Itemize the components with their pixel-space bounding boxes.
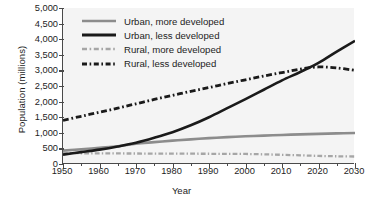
y-axis-tick xyxy=(59,117,64,118)
y-axis-tick-label: 1,500 xyxy=(2,112,58,122)
x-axis-tick-label: 2010 xyxy=(261,166,301,176)
y-axis-tick xyxy=(59,133,64,134)
x-axis-tick-label: 2000 xyxy=(225,166,265,176)
y-axis-tick xyxy=(59,102,64,103)
legend-item-rural-more-developed: Rural, more developed xyxy=(81,42,311,56)
y-axis-tick-label: 5,000 xyxy=(2,3,58,13)
y-axis-tick-label: 2,000 xyxy=(2,97,58,107)
solid-gray-line-swatch xyxy=(81,16,117,26)
legend-label: Rural, more developed xyxy=(124,44,221,55)
legend-label: Urban, less developed xyxy=(124,30,219,41)
x-axis-tick-label: 2030 xyxy=(334,166,369,176)
plot-area: Urban, more developed Urban, less develo… xyxy=(62,8,354,164)
y-axis-tick-label: 500 xyxy=(2,143,58,153)
y-axis-tick-label: 3,500 xyxy=(2,50,58,60)
legend-label: Urban, more developed xyxy=(124,16,224,27)
y-axis-tick-label: 3,000 xyxy=(2,65,58,75)
legend-item-urban-more-developed: Urban, more developed xyxy=(81,14,311,28)
y-axis-tick xyxy=(59,86,64,87)
chart-legend: Urban, more developed Urban, less develo… xyxy=(81,14,311,71)
series-line-rural-less-developed xyxy=(63,67,355,120)
legend-label: Rural, less developed xyxy=(124,58,216,69)
dashdot-gray-line-swatch xyxy=(81,44,117,54)
x-axis-tick-label: 1960 xyxy=(79,166,119,176)
solid-black-line-swatch xyxy=(81,30,117,40)
x-axis-tick-label: 1980 xyxy=(152,166,192,176)
series-line-rural-more-developed xyxy=(63,153,355,156)
dashdot-black-line-swatch xyxy=(81,59,117,69)
y-axis-tick xyxy=(59,39,64,40)
y-axis-tick-label: 2,500 xyxy=(2,81,58,91)
y-axis-tick-label: 4,000 xyxy=(2,34,58,44)
y-axis-tick-label: 4,500 xyxy=(2,19,58,29)
x-axis-tick-label: 1970 xyxy=(115,166,155,176)
y-axis-tick xyxy=(59,148,64,149)
y-axis-tick xyxy=(59,24,64,25)
legend-item-urban-less-developed: Urban, less developed xyxy=(81,28,311,42)
y-axis-tick xyxy=(59,55,64,56)
x-axis-tick-label: 1990 xyxy=(188,166,228,176)
x-axis-title: Year xyxy=(0,185,363,196)
legend-item-rural-less-developed: Rural, less developed xyxy=(81,57,311,71)
x-axis-tick-label: 2020 xyxy=(298,166,338,176)
y-axis-tick xyxy=(59,70,64,71)
y-axis-tick-label: 1,000 xyxy=(2,128,58,138)
x-axis-tick-label: 1950 xyxy=(42,166,82,176)
y-axis-tick xyxy=(59,8,64,9)
